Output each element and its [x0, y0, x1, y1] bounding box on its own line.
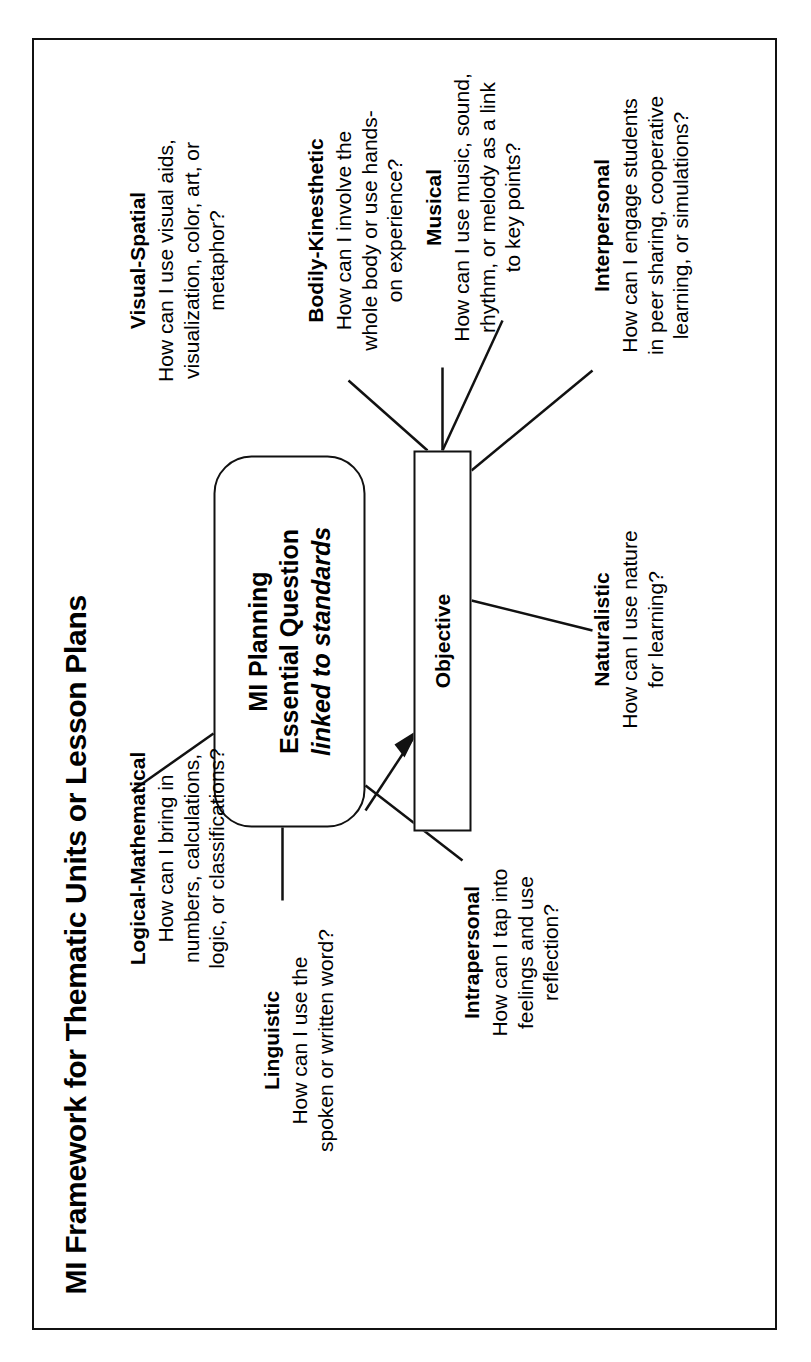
objective-label: Objective	[430, 593, 454, 688]
branch-body-musical: How can I use music, sound, rhythm, or m…	[448, 47, 525, 367]
branch-body-linguistic: How can I use the spoken or written word…	[286, 900, 337, 1180]
branch-title-naturalistic: Naturalistic	[588, 493, 613, 765]
branch-body-naturalistic: How can I use nature for learning?	[616, 493, 667, 765]
branch-body-intrapersonal: How can I tap into feelings and use refl…	[486, 822, 563, 1082]
branch-title-linguistic: Linguistic	[258, 900, 283, 1180]
center-essential-question-box[interactable]: MI Planning Essential Question linked to…	[213, 455, 365, 827]
diagram-page: MI Framework for Thematic Units or Lesso…	[0, 0, 811, 1362]
connector-naturalistic	[471, 600, 592, 630]
branch-title-bodily-kinesthetic: Bodily-Kinesthetic	[302, 65, 327, 395]
branch-bodily-kinesthetic[interactable]: Bodily-Kinesthetic How can I involve the…	[302, 65, 407, 395]
branch-body-interpersonal: How can I engage students in peer sharin…	[616, 60, 693, 390]
branch-title-intrapersonal: Intrapersonal	[458, 822, 483, 1082]
center-line-2: Essential Question	[273, 528, 305, 753]
branch-title-interpersonal: Interpersonal	[588, 60, 613, 390]
branch-intrapersonal[interactable]: Intrapersonal How can I tap into feeling…	[458, 822, 563, 1082]
branch-title-visual-spatial: Visual-Spatial	[124, 95, 149, 425]
branch-interpersonal[interactable]: Interpersonal How can I engage students …	[588, 60, 693, 390]
branch-body-visual-spatial: How can I use visual aids, visualization…	[152, 95, 229, 425]
branch-body-logical-mathematical: How can I bring in numbers, calculations…	[152, 698, 229, 1018]
connector-interpersonal	[471, 370, 592, 470]
branch-linguistic[interactable]: Linguistic How can I use the spoken or w…	[258, 900, 337, 1180]
center-line-1: MI Planning	[242, 571, 274, 711]
branch-logical-mathematical[interactable]: Logical-Mathematical How can I bring in …	[124, 698, 229, 1018]
branch-title-musical: Musical	[420, 47, 445, 367]
objective-box[interactable]: Objective	[413, 450, 471, 831]
center-line-3: linked to standards	[305, 526, 337, 755]
diagram-rotation-wrapper: MI Framework for Thematic Units or Lesso…	[32, 38, 777, 1330]
branch-naturalistic[interactable]: Naturalistic How can I use nature for le…	[588, 493, 667, 765]
branch-title-logical-mathematical: Logical-Mathematical	[124, 698, 149, 1018]
branch-musical[interactable]: Musical How can I use music, sound, rhyt…	[420, 47, 525, 367]
branch-visual-spatial[interactable]: Visual-Spatial How can I use visual aids…	[124, 95, 229, 425]
branch-body-bodily-kinesthetic: How can I involve the whole body or use …	[330, 65, 407, 395]
diagram-canvas: MI Framework for Thematic Units or Lesso…	[32, 38, 777, 1330]
